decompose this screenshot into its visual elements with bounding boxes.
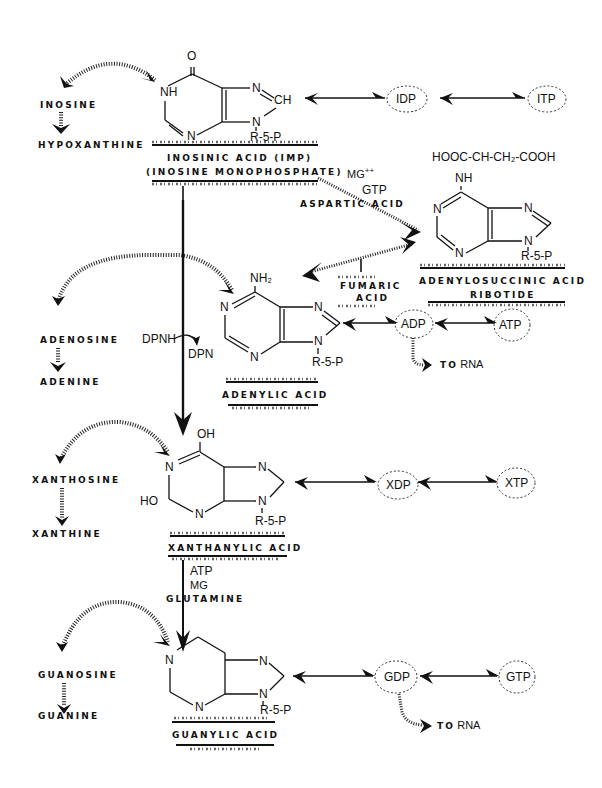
inosinic-acid-structure: O NH N N CH N R-5-P bbox=[160, 49, 291, 144]
ads-n3: N bbox=[455, 246, 464, 260]
amp-n3: N bbox=[250, 350, 259, 364]
gmp-n1: N bbox=[165, 653, 174, 667]
xmp-n1: N bbox=[165, 460, 174, 474]
xanthanylic-acid-label: XANTHANYLIC ACID bbox=[168, 543, 303, 553]
aspartic-acid-label: ASPARTIC ACID bbox=[300, 199, 405, 209]
mg-plus-label: MG++ bbox=[347, 166, 374, 180]
atp-label: ATP bbox=[499, 318, 521, 332]
imp-alt-label: (INOSINE MONOPHOSPHATE) bbox=[146, 167, 343, 177]
adenylosuccinic-label: ADENYLOSUCCINIC ACID bbox=[419, 276, 586, 286]
dpnh-label: DPNH bbox=[142, 332, 176, 346]
ads-ribose: R-5-P bbox=[521, 249, 552, 263]
adenosine-label: ADENOSINE bbox=[40, 335, 119, 345]
idp-label: IDP bbox=[396, 92, 416, 106]
fumaric-label: FUMARIC bbox=[340, 281, 402, 291]
inosine-label: INOSINE bbox=[40, 100, 97, 110]
imp-ch: CH bbox=[274, 93, 291, 107]
adenine-label: ADENINE bbox=[40, 377, 101, 387]
gmp-n3: N bbox=[195, 700, 204, 714]
xmp-n9: N bbox=[258, 494, 267, 508]
xmp-ho: HO bbox=[140, 494, 158, 508]
ads-n1: N bbox=[433, 202, 442, 216]
atp-cofactor-label: ATP bbox=[190, 564, 212, 578]
adp-label: ADP bbox=[401, 317, 426, 331]
adenylosuccinic-side-chain: HOOC-CH-CH₂-COOH bbox=[432, 150, 555, 164]
amp-n9: N bbox=[314, 334, 323, 348]
adp-to-rna-label: TORNA bbox=[440, 358, 484, 370]
gdp-label: GDP bbox=[384, 670, 410, 684]
amp-ribose: R-5-P bbox=[312, 355, 343, 369]
itp-label: ITP bbox=[537, 92, 556, 106]
gtp-cofactor-label: GTP bbox=[362, 183, 387, 197]
adenylosuccinic-label-2: RIBOTIDE bbox=[470, 290, 536, 300]
gtp-label: GTP bbox=[506, 670, 531, 684]
fumaric-acid-label: ACID bbox=[356, 293, 389, 303]
xmp-n3: N bbox=[195, 507, 204, 521]
gmp-ribose: R-5-P bbox=[260, 703, 291, 717]
imp-o: O bbox=[187, 49, 196, 63]
xmp-oh: OH bbox=[197, 427, 215, 441]
xmp-n7: N bbox=[258, 460, 267, 474]
xanthosine-label: XANTHOSINE bbox=[32, 475, 120, 485]
gdp-to-rna-label: TORNA bbox=[437, 719, 481, 731]
gmp-n7: N bbox=[259, 654, 268, 668]
xanthine-label: XANTHINE bbox=[32, 529, 102, 539]
amp-n1: N bbox=[220, 300, 229, 314]
ads-n9: N bbox=[524, 234, 533, 248]
purine-pathway-diagram: O NH N N CH N R-5-P INOSINIC ACID (IMP) … bbox=[0, 0, 602, 788]
mg-cofactor-label: MG bbox=[190, 579, 208, 591]
imp-n7: N bbox=[252, 81, 261, 95]
guanine-label: GUANINE bbox=[38, 711, 99, 721]
xmp-ribose: R-5-P bbox=[255, 514, 286, 528]
imp-label: INOSINIC ACID (IMP) bbox=[167, 153, 312, 163]
ads-n7: N bbox=[524, 201, 533, 215]
xdp-label: XDP bbox=[386, 478, 411, 492]
guanosine-label: GUANOSINE bbox=[38, 670, 118, 680]
dpn-label: DPN bbox=[188, 347, 213, 361]
adenylic-acid-label: ADENYLIC ACID bbox=[222, 390, 328, 400]
imp-n9: N bbox=[252, 115, 261, 129]
imp-nh: NH bbox=[160, 85, 177, 99]
glutamine-label: GLUTAMINE bbox=[166, 594, 244, 604]
hypoxanthine-label: HYPOXANTHINE bbox=[38, 140, 145, 150]
adenylic-acid-structure: NH₂ N N N N R-5-P bbox=[220, 271, 343, 369]
amp-n7: N bbox=[314, 300, 323, 314]
ads-nh: NH bbox=[455, 171, 472, 185]
guanylic-acid-label: GUANYLIC ACID bbox=[172, 730, 279, 740]
xtp-label: XTP bbox=[505, 476, 528, 490]
amp-nh2: NH₂ bbox=[250, 271, 272, 285]
gmp-n9: N bbox=[259, 687, 268, 701]
